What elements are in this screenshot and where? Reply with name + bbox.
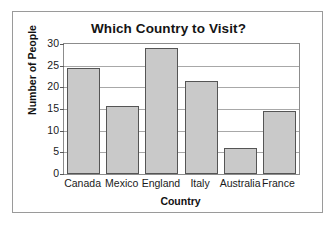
x-axis-tick-label: France (259, 177, 298, 189)
bar-france (263, 111, 296, 174)
y-axis-tick-label: 10 (39, 124, 59, 136)
bar-canada (67, 68, 100, 174)
y-axis-tick-mark (60, 66, 64, 67)
y-axis-tick-label: 20 (39, 80, 59, 92)
bar-italy (185, 81, 218, 174)
y-axis-tick-mark (60, 152, 64, 153)
y-axis-tick-labels: 051015202530 (35, 43, 59, 173)
y-axis-tick-mark (60, 87, 64, 88)
y-axis-tick-mark (60, 174, 64, 175)
y-axis-tick-mark (60, 44, 64, 45)
x-axis-tick-label: Italy (181, 177, 220, 189)
y-axis-tick-label: 5 (39, 145, 59, 157)
x-axis-tick-label: Canada (63, 177, 102, 189)
x-axis-tick-label: Australia (220, 177, 259, 189)
x-axis-tick-label: Mexico (102, 177, 141, 189)
y-axis-tick-label: 0 (39, 167, 59, 179)
y-axis-tick-label: 30 (39, 37, 59, 49)
chart-figure: Which Country to Visit? Number of People… (12, 11, 323, 213)
x-axis-title: Country (63, 195, 298, 207)
gridline (64, 66, 299, 67)
bar-australia (224, 148, 257, 174)
bar-england (145, 48, 178, 174)
y-axis-tick-label: 15 (39, 102, 59, 114)
plot-area (63, 43, 300, 175)
bar-mexico (106, 106, 139, 174)
y-axis-tick-mark (60, 131, 64, 132)
x-axis-tick-label: England (141, 177, 180, 189)
y-axis-tick-mark (60, 109, 64, 110)
y-axis-tick-label: 25 (39, 59, 59, 71)
chart-title: Which Country to Visit? (13, 21, 324, 36)
